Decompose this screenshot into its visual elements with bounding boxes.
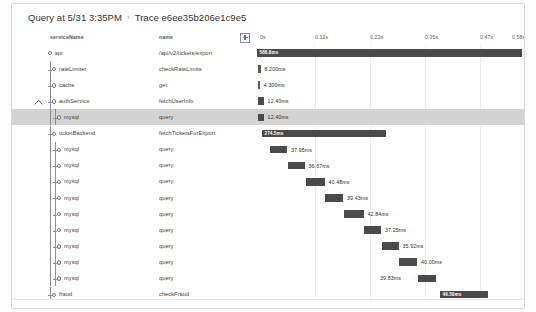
axis-tick-label: 0.47s (480, 34, 493, 40)
span-tree-cell: mysql (12, 254, 157, 270)
span-operation-name: checkRateLimits (159, 66, 202, 72)
span-tree-cell: mysql (12, 238, 157, 254)
span-duration-bar[interactable] (399, 258, 417, 266)
span-tree-cell: mysql (12, 142, 157, 158)
chevron-up-icon[interactable] (34, 100, 43, 105)
tree-trunk-line (50, 238, 51, 254)
span-node-dot[interactable] (57, 212, 61, 216)
span-duration-label: 39.83ms (380, 275, 401, 281)
span-duration-bar[interactable] (325, 194, 343, 202)
span-service-name: mysql (64, 227, 79, 233)
span-operation-name: query (159, 243, 174, 249)
span-duration-bar[interactable] (364, 226, 381, 234)
span-node-dot[interactable] (57, 260, 61, 264)
span-node-dot[interactable] (57, 196, 61, 200)
span-duration-bar[interactable]: 46.50ms (440, 291, 488, 299)
span-row[interactable]: mysqlquery42.84ms (12, 206, 524, 222)
span-row[interactable]: api/api/v2/tickets/export588.8ms (12, 45, 524, 61)
span-service-name: mysql (64, 243, 79, 249)
span-row[interactable]: ticketBackendfetchTicketsForExport274.5m… (12, 126, 524, 142)
span-duration-label: 8.200ms (265, 66, 286, 72)
span-duration-label: 4.300ms (264, 82, 285, 88)
span-duration-bar[interactable] (258, 81, 260, 89)
span-node-dot[interactable] (48, 51, 52, 55)
span-node-dot[interactable] (57, 228, 61, 232)
span-duration-bar[interactable] (382, 242, 399, 250)
span-tree-cell: mysql (12, 190, 157, 206)
span-operation-name: query (159, 275, 174, 281)
breadcrumb-trace-label: Trace e6ee35b206e1c9e5 (135, 12, 247, 23)
span-duration-bar[interactable]: 274.5ms (262, 130, 386, 138)
timeline-axis: 0s0.12s0.23s0.35s0.47s0.58s (12, 30, 524, 45)
span-duration-bar[interactable] (306, 178, 325, 186)
span-row[interactable]: mysqlquery40.48ms (12, 174, 524, 190)
span-row[interactable]: mysqlquery37.25ms (12, 222, 524, 238)
span-duration-bar[interactable]: 588.8ms (257, 49, 522, 57)
span-service-name: mysql (64, 259, 79, 265)
span-tree-cell: mysql (12, 158, 157, 174)
span-service-name: fraud (59, 291, 72, 297)
span-row[interactable]: mysqlquery37.95ms (12, 142, 524, 158)
span-operation-name: query (159, 114, 174, 120)
span-service-name: mysql (64, 195, 79, 201)
span-duration-bar[interactable] (418, 275, 436, 283)
span-service-name: cache (59, 82, 74, 88)
span-row[interactable]: mysqlquery12.40ms (12, 109, 524, 125)
span-node-dot[interactable] (57, 148, 61, 152)
span-row[interactable]: rateLimitercheckRateLimits8.200ms (12, 61, 524, 77)
span-duration-bar[interactable] (288, 162, 305, 170)
span-row[interactable]: cacheget4.300ms (12, 77, 524, 93)
span-row[interactable]: mysqlquery36.67ms (12, 158, 524, 174)
span-operation-name: checkFraud (159, 291, 189, 297)
span-tree-cell: api (12, 45, 157, 61)
span-duration-bar[interactable] (344, 210, 364, 218)
trace-card: Query at 5/31 3:35PM › Trace e6ee35b206e… (11, 3, 525, 309)
breadcrumb-query-link[interactable]: Query at 5/31 3:35PM (28, 12, 122, 23)
span-row[interactable]: mysqlquery40.00ms (12, 254, 524, 270)
span-duration-label: 12.40ms (268, 98, 289, 104)
span-node-dot[interactable] (57, 276, 61, 280)
span-node-dot[interactable] (52, 67, 56, 71)
tree-trunk-line (50, 190, 51, 206)
span-node-dot[interactable] (52, 99, 56, 103)
tree-trunk-line (50, 270, 51, 286)
axis-tick-label: 0s (260, 34, 266, 40)
span-operation-name: query (159, 146, 174, 152)
span-operation-name: /api/v2/tickets/export (159, 50, 212, 56)
span-tree-cell: cache (12, 77, 157, 93)
tree-trunk-line (50, 206, 51, 222)
span-node-dot[interactable] (52, 83, 56, 87)
span-service-name: rateLimiter (59, 66, 87, 72)
span-operation-name: query (159, 259, 174, 265)
tree-trunk-line (50, 109, 51, 125)
span-row[interactable]: mysqlquery35.92ms (12, 238, 524, 254)
span-node-dot[interactable] (57, 180, 61, 184)
span-service-name: mysql (64, 114, 79, 120)
span-duration-label: 274.5ms (265, 131, 284, 136)
span-node-dot[interactable] (57, 115, 61, 119)
span-duration-label: 35.92ms (403, 243, 424, 249)
span-tree-cell: mysql (12, 174, 157, 190)
span-operation-name: fetchUserInfo (159, 98, 194, 104)
span-duration-bar[interactable] (270, 146, 287, 154)
span-operation-name: get (159, 82, 167, 88)
span-row[interactable]: authServicefetchUserInfo12.40ms (12, 93, 524, 109)
span-operation-name: query (159, 178, 174, 184)
span-tree-cell: mysql (12, 206, 157, 222)
span-tree-cell: rateLimiter (12, 61, 157, 77)
span-duration-label: 37.25ms (385, 227, 406, 233)
span-node-dot[interactable] (52, 132, 56, 136)
breadcrumb: Query at 5/31 3:35PM › Trace e6ee35b206e… (12, 4, 524, 30)
span-row[interactable]: mysqlquery39.43ms (12, 190, 524, 206)
span-duration-bar[interactable] (258, 65, 261, 73)
card-footer (12, 299, 524, 308)
span-operation-name: query (159, 227, 174, 233)
span-row[interactable]: mysqlquery39.83ms (12, 270, 524, 286)
span-duration-bar[interactable] (258, 114, 264, 122)
span-node-dot[interactable] (52, 293, 56, 297)
span-node-dot[interactable] (57, 244, 61, 248)
span-node-dot[interactable] (57, 164, 61, 168)
span-duration-bar[interactable] (258, 97, 264, 105)
span-duration-label: 12.40ms (268, 114, 289, 120)
span-operation-name: query (159, 195, 174, 201)
